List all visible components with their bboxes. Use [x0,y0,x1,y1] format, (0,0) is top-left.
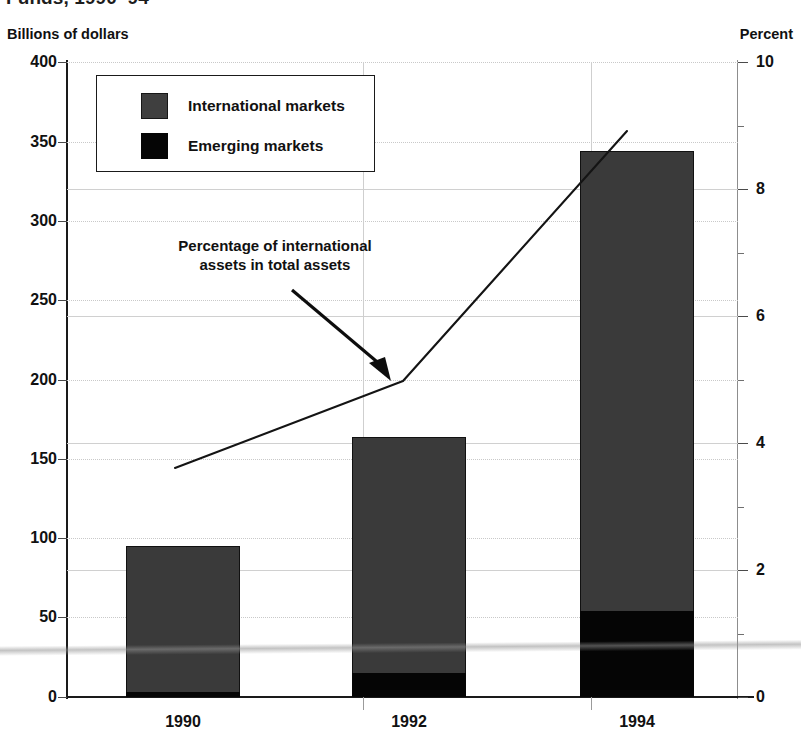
chart-figure: Funds, 1990–94 Billions of dollars Perce… [0,0,801,755]
annotation-text: Percentage of international assets in to… [150,236,400,274]
tick-right-8 [738,189,748,190]
bar-emerging-1994 [580,611,694,697]
tick-x-2 [591,697,592,710]
left-axis-caption: Billions of dollars [7,26,129,42]
y-tick-label-50: 50 [39,608,57,626]
y-tick-label-0: 0 [48,688,57,706]
tick-left-250 [58,300,67,301]
x-tick-label-1990: 1990 [165,713,201,731]
annotation-line-2: assets in total assets [150,255,400,274]
tick-left-50 [58,617,67,618]
legend-label-international: International markets [188,97,345,115]
tick-left-400 [58,62,67,63]
y-tick-label-250: 250 [30,291,57,309]
x-tick-label-1992: 1992 [391,713,427,731]
tick-right-6 [738,316,748,317]
x-tick-label-1994: 1994 [619,713,655,731]
y-tick-label-150: 150 [30,450,57,468]
tick-left-200 [58,380,67,381]
y-tick-label-350: 350 [30,133,57,151]
legend-swatch-emerging-icon [141,133,168,159]
y-tick-label-300: 300 [30,212,57,230]
bar-international-1992 [352,437,466,697]
tick-right-1 [738,634,744,635]
gridline-400 [67,62,738,63]
tick-right-4 [738,443,748,444]
legend-label-emerging: Emerging markets [188,137,323,155]
right-axis-caption: Percent [740,26,793,42]
legend-item-emerging: Emerging markets [141,133,323,159]
y2-tick-label-0: 0 [756,688,765,706]
y2-tick-label-2: 2 [756,561,765,579]
y2-tick-label-10: 10 [756,53,774,71]
y-tick-label-400: 400 [30,53,57,71]
bar-international-1990 [126,546,240,697]
chart-title: Funds, 1990–94 [6,0,149,9]
tick-right-3 [738,507,744,508]
legend-item-international: International markets [141,93,345,119]
y2-tick-label-6: 6 [756,307,765,325]
tick-right-7 [738,253,744,254]
y2-tick-label-4: 4 [756,434,765,452]
annotation-line-1: Percentage of international [150,236,400,255]
tick-left-350 [58,142,67,143]
legend-swatch-international-icon [141,93,168,119]
y2-tick-label-8: 8 [756,180,765,198]
tick-left-0 [58,697,67,698]
y-tick-label-100: 100 [30,529,57,547]
tick-left-100 [58,538,67,539]
bar-emerging-1990 [126,692,240,697]
tick-right-0 [738,697,748,698]
chart-legend: International markets Emerging markets [96,75,375,172]
y-tick-label-200: 200 [30,371,57,389]
tick-left-150 [58,459,67,460]
tick-right-2 [738,570,748,571]
tick-right-9 [738,126,744,127]
tick-left-300 [58,221,67,222]
tick-x-1 [363,697,364,710]
tick-right-10 [738,62,748,63]
tick-right-5 [738,380,744,381]
bar-emerging-1992 [352,673,466,697]
